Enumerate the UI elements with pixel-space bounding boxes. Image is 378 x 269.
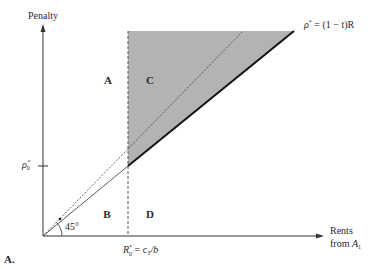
y-axis-label: Penalty	[28, 10, 58, 21]
region-label-a: A	[104, 74, 112, 86]
angle-label: 45°	[65, 221, 79, 232]
x-axis-label-line2: from A1	[330, 238, 361, 250]
penalty-line-label: ρ* = (1 − t)R	[303, 19, 355, 31]
x-axis-label-line1: Rents	[330, 225, 353, 236]
incentive-diagram: Penalty Rents from A1 ρ* = (1 − t)R ρ̂0 …	[0, 0, 378, 269]
region-label-b: B	[103, 208, 111, 220]
x-axis-arrow-icon	[316, 234, 324, 239]
x-tick-label: R*0 = cT/b	[122, 244, 158, 257]
angle-dot	[59, 218, 62, 221]
panel-label: A.	[4, 253, 15, 265]
y-axis-arrow-icon	[41, 24, 46, 32]
region-label-d: D	[146, 208, 154, 220]
region-label-c: C	[146, 74, 154, 86]
y-tick-label: ρ̂0	[21, 159, 31, 171]
penalty-line-thin	[43, 166, 128, 236]
